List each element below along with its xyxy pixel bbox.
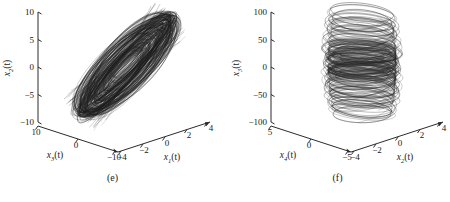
- subplot-e: 10 5 0 −5 −10 x2(t) 10 0 −10 x3(t): [0, 0, 225, 202]
- tick-f-vertical-0: 100: [254, 7, 268, 17]
- attractor-trajectory-e: [64, 3, 186, 131]
- attractor-trajectory-f: [321, 3, 403, 123]
- axis-title-e-vertical: x2(t): [2, 60, 14, 77]
- tick-f-vertical-3: −50: [253, 90, 268, 100]
- tick-e-left-0: 10: [32, 127, 42, 137]
- tick-e-left-1: 0: [74, 140, 79, 150]
- axis-title-f-vertical: x3(t): [231, 60, 243, 77]
- tick-e-right-2: 0: [165, 138, 170, 148]
- axes-e: 10 5 0 −5 −10 x2(t) 10 0 −10 x3(t): [0, 0, 225, 170]
- axis-title-f-right: x2(t): [396, 152, 413, 164]
- tick-e-vertical-4: −10: [20, 117, 35, 127]
- tick-f-vertical-4: −100: [248, 117, 267, 127]
- axes-f: 100 50 0 −50 −100 x3(t) 5 0 −5 x4(t): [225, 0, 450, 170]
- axis-title-e-left: x3(t): [46, 150, 63, 162]
- plot-area-e: 10 5 0 −5 −10 x2(t) 10 0 −10 x3(t): [0, 0, 225, 170]
- tick-f-right-3: 2: [420, 130, 425, 140]
- plot-area-f: 100 50 0 −50 −100 x3(t) 5 0 −5 x4(t): [225, 0, 450, 170]
- tick-f-right-2: 0: [398, 138, 403, 148]
- figure-container: 10 5 0 −5 −10 x2(t) 10 0 −10 x3(t): [0, 0, 450, 202]
- subplot-caption-f: (f): [225, 172, 450, 183]
- tick-f-right-0: −4: [350, 152, 360, 162]
- tick-f-left-0: 5: [268, 127, 273, 137]
- tick-f-vertical-2: 0: [263, 62, 268, 72]
- tick-e-vertical-2: 0: [30, 62, 35, 72]
- tick-f-left-1: 0: [307, 140, 312, 150]
- subplot-f: 100 50 0 −50 −100 x3(t) 5 0 −5 x4(t): [225, 0, 450, 202]
- tick-e-vertical-0: 10: [25, 7, 35, 17]
- tick-e-right-4: 4: [209, 123, 214, 133]
- subplot-caption-e: (e): [0, 172, 225, 183]
- axis-title-f-left: x4(t): [279, 150, 296, 162]
- tick-f-vertical-1: 50: [258, 35, 268, 45]
- tick-e-right-3: 2: [187, 130, 192, 140]
- tick-e-right-1: −2: [139, 145, 149, 155]
- tick-f-right-4: 4: [442, 123, 447, 133]
- tick-f-right-1: −2: [372, 145, 382, 155]
- axis-title-e-right: x1(t): [163, 152, 180, 164]
- tick-e-right-0: −4: [117, 152, 127, 162]
- tick-e-vertical-3: −5: [24, 90, 34, 100]
- tick-e-vertical-1: 5: [30, 35, 35, 45]
